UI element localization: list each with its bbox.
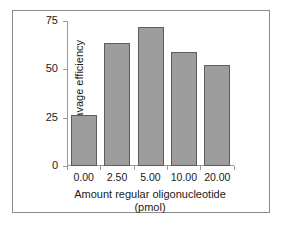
x-tick-label: 20.00 [201, 171, 234, 183]
bar [71, 115, 97, 166]
y-tick-label: 50 [46, 62, 58, 75]
x-tick [234, 166, 235, 170]
x-tick [67, 166, 68, 170]
y-axis-line [67, 21, 68, 166]
x-tick [134, 166, 135, 170]
x-tick [200, 166, 201, 170]
figure-frame: % Cleavage efficiency 0255075 0.002.505.… [12, 10, 270, 213]
y-tick: 25 [63, 118, 68, 119]
x-axis-title-text: Amount regular oligonucleotide [74, 188, 226, 200]
bar [104, 43, 130, 166]
y-tick: 50 [63, 69, 68, 70]
y-tick-label: 0 [52, 159, 58, 172]
bar [171, 52, 197, 166]
x-tick [167, 166, 168, 170]
x-axis-title: Amount regular oligonucleotide (pmol) [21, 188, 279, 214]
plot-area: % Cleavage efficiency 0255075 0.002.505.… [67, 21, 234, 166]
bar [138, 27, 164, 166]
x-tick [100, 166, 101, 170]
y-tick-label: 75 [46, 14, 58, 27]
x-tick-label: 2.50 [100, 171, 133, 183]
x-tick-label: 0.00 [67, 171, 100, 183]
x-axis-title-units: (pmol) [21, 201, 279, 214]
bar [204, 65, 230, 167]
x-tick-label: 5.00 [134, 171, 167, 183]
x-tick-label: 10.00 [167, 171, 200, 183]
y-tick-label: 25 [46, 111, 58, 124]
y-tick: 75 [63, 21, 68, 22]
